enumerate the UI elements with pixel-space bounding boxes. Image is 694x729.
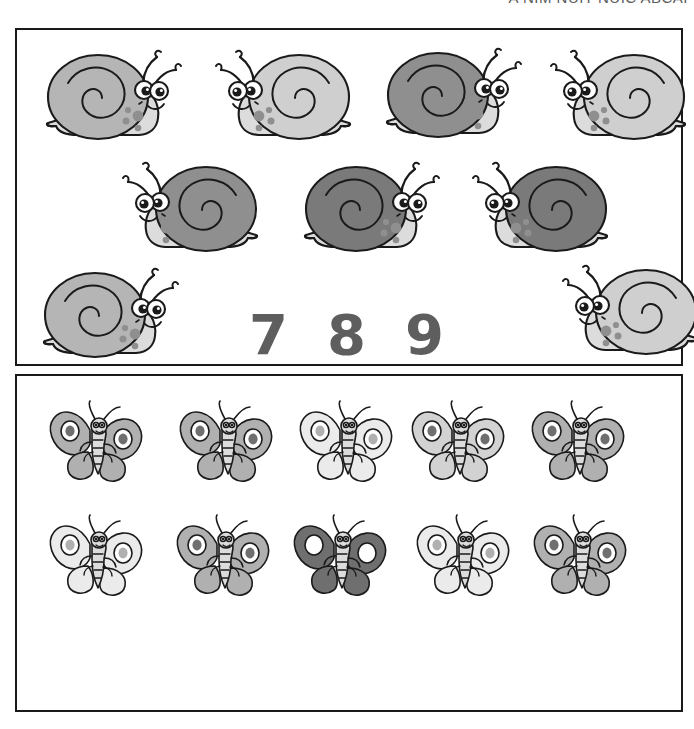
exercise-box-butterflies: 8910 — [15, 374, 683, 712]
butterfly-figure — [402, 400, 514, 492]
butterfly-figure — [284, 514, 396, 606]
snail-figure — [380, 40, 530, 145]
snail-figure — [207, 42, 357, 147]
snail-figure — [114, 154, 264, 259]
butterfly-figure — [524, 514, 636, 606]
answer-choice-7[interactable]: 7 — [249, 307, 287, 363]
page-header-strip: A NIM NUIT NUIC ABCAI — [0, 0, 694, 13]
butterfly-figure — [167, 514, 279, 606]
butterfly-figure — [407, 514, 519, 606]
answer-choice-8[interactable]: 8 — [327, 307, 365, 363]
exercise-box-snails: 789 — [15, 28, 683, 366]
header-partial-text: A NIM NUIT NUIC ABCAI — [509, 0, 688, 6]
snail-figure — [40, 42, 190, 147]
answer-choice-9[interactable]: 9 — [405, 307, 443, 363]
butterfly-figure — [290, 400, 402, 492]
butterfly-figure — [170, 400, 282, 492]
butterfly-figure — [40, 400, 152, 492]
snail-figure — [37, 260, 187, 365]
butterfly-figure — [522, 400, 634, 492]
answer-choices-snails: 789 — [249, 307, 443, 363]
snail-figure — [298, 154, 448, 259]
snail-figure — [554, 257, 694, 362]
snail-figure — [542, 42, 692, 147]
snail-figure — [464, 154, 614, 259]
worksheet-page: A NIM NUIT NUIC ABCAI — [0, 0, 694, 729]
butterfly-figure — [40, 514, 152, 606]
